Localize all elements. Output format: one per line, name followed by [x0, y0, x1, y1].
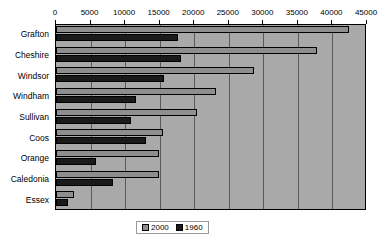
- y-axis-category-label: Sullivan: [19, 112, 49, 122]
- bar-2000: [56, 88, 216, 95]
- y-axis-category-label: Essex: [26, 195, 49, 205]
- x-axis-tick-label: 0: [53, 8, 57, 18]
- bar-1960: [56, 75, 164, 82]
- x-axis-tick-mark: [297, 20, 298, 24]
- x-axis-tick-label: 10000: [113, 8, 135, 18]
- bar-2000: [56, 191, 74, 198]
- bar-group: [56, 46, 365, 67]
- legend-swatch-1960: [176, 224, 183, 231]
- x-axis-tick-mark: [193, 20, 194, 24]
- x-axis-tick-mark: [228, 20, 229, 24]
- bar-group: [56, 170, 365, 191]
- x-axis-tick-mark: [90, 20, 91, 24]
- bar-2000: [56, 150, 159, 157]
- bar-2000: [56, 47, 317, 54]
- bar-1960: [56, 137, 146, 144]
- bar-2000: [56, 26, 349, 33]
- x-axis-tick-mark: [124, 20, 125, 24]
- legend-item-1960: 1960: [176, 223, 203, 232]
- bar-group: [56, 66, 365, 87]
- x-axis-tick-label: 15000: [148, 8, 170, 18]
- x-axis-tick-label: 45000: [355, 8, 377, 18]
- x-axis-tick-mark: [366, 20, 367, 24]
- bar-chart: 0500010000150002000025000300003500040000…: [0, 0, 378, 238]
- bar-groups: [56, 25, 365, 209]
- bar-1960: [56, 158, 96, 165]
- x-axis-tick-label: 40000: [320, 8, 342, 18]
- x-axis-tick-mark: [159, 20, 160, 24]
- bar-1960: [56, 34, 178, 41]
- bar-group: [56, 190, 365, 210]
- x-axis-tick-label: 30000: [251, 8, 273, 18]
- bar-1960: [56, 117, 131, 124]
- bar-group: [56, 128, 365, 149]
- bar-1960: [56, 96, 136, 103]
- y-axis-category-label: Caledonia: [11, 174, 49, 184]
- legend-label-1960: 1960: [185, 223, 203, 232]
- bar-1960: [56, 55, 181, 62]
- bar-2000: [56, 129, 163, 136]
- x-axis-tick-labels: 0500010000150002000025000300003500040000…: [55, 8, 366, 22]
- legend-label-2000: 2000: [151, 223, 169, 232]
- y-axis-category-label: Orange: [21, 153, 49, 163]
- bar-2000: [56, 109, 197, 116]
- x-axis-tick-mark: [331, 20, 332, 24]
- x-axis-tick-mark: [55, 20, 56, 24]
- chart-legend: 2000 1960: [136, 221, 209, 234]
- bar-group: [56, 149, 365, 170]
- x-axis-tick-label: 35000: [286, 8, 308, 18]
- plot-area: [55, 24, 366, 210]
- y-axis-category-label: Coos: [29, 133, 49, 143]
- x-axis-tick-label: 20000: [182, 8, 204, 18]
- y-axis-category-label: Grafton: [21, 29, 49, 39]
- bar-1960: [56, 199, 68, 206]
- x-axis-tick-label: 25000: [217, 8, 239, 18]
- bar-1960: [56, 179, 113, 186]
- bar-group: [56, 108, 365, 129]
- bar-group: [56, 87, 365, 108]
- x-axis-tick-mark: [262, 20, 263, 24]
- bar-group: [56, 25, 365, 46]
- y-axis-category-label: Cheshire: [15, 50, 49, 60]
- y-axis-category-labels: GraftonCheshireWindsorWindhamSullivanCoo…: [0, 24, 53, 210]
- legend-swatch-2000: [142, 224, 149, 231]
- bar-2000: [56, 171, 159, 178]
- y-axis-category-label: Windham: [13, 91, 49, 101]
- x-axis-tick-label: 5000: [81, 8, 99, 18]
- legend-item-2000: 2000: [142, 223, 169, 232]
- bar-2000: [56, 67, 254, 74]
- y-axis-category-label: Windsor: [18, 71, 49, 81]
